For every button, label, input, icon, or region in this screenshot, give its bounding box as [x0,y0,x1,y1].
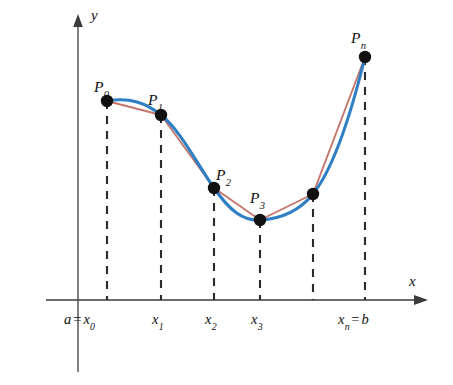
y-axis-label: y [91,8,98,23]
point-marker-pn [359,51,371,63]
tick-x3-label: x3 [251,312,262,330]
arc-length-figure: y x P0P1P2P3Pn a=x0x1x2x3xn=b [0,0,453,385]
x-axis-label: x [409,274,416,289]
tick-x2-label: x2 [205,312,216,330]
tick-x0-label: a=x0 [64,312,95,330]
dashed-vertical-lines [107,57,365,300]
point-label-p0: P0 [94,79,109,99]
y-axis-arrowhead [73,14,83,27]
point-label-p3: P3 [250,190,265,210]
tick-xn-label: xn=b [338,312,369,330]
tick-x1-label: x1 [152,312,163,330]
inscribed-polygon-chords [107,57,365,220]
point-marker-p3 [254,214,266,226]
x-axis-arrowhead [414,295,428,305]
point-label-p1: P1 [148,92,163,112]
smooth-curve [107,57,365,220]
point-label-p2: P2 [216,167,231,187]
partition-point-markers [101,51,371,226]
point-marker-p4 [307,188,319,200]
point-label-pn: Pn [351,30,366,50]
